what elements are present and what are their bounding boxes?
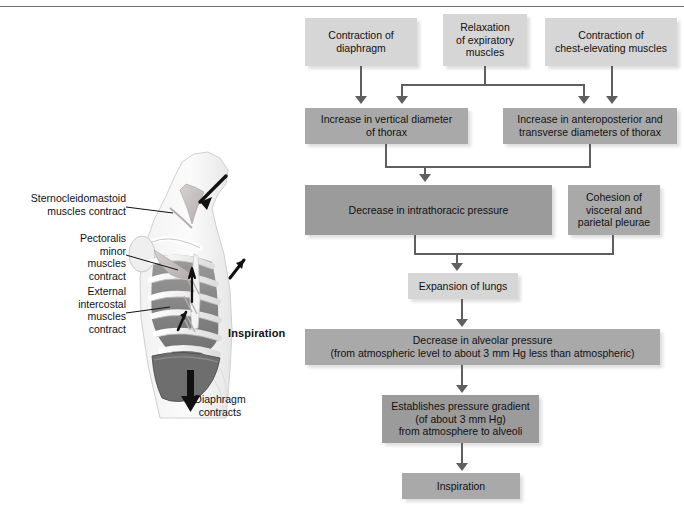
arrowhead-chest-down: [606, 96, 618, 104]
connector-expansion-down: [461, 299, 463, 321]
arrowhead-gradient: [456, 385, 468, 393]
connector-relaxation-bus: [401, 84, 585, 86]
node-establishes-pressure-gradient: Establishes pressure gradient (of about …: [382, 395, 539, 443]
arrowhead-relaxation-left: [396, 96, 408, 104]
figure-root: Inspiration Sternocleidomastoid muscles …: [0, 0, 684, 507]
connector-relaxation-stem: [484, 66, 486, 84]
node-increase-anteroposterior-diameters: Increase in anteroposterior and transver…: [503, 108, 677, 144]
connector-chest-down: [611, 66, 613, 98]
node-cohesion-of-pleurae: Cohesion of visceral and parietal pleura…: [568, 185, 660, 235]
connector-cohesion-drop: [612, 235, 614, 253]
node-relaxation-of-expiratory-muscles: Relaxation of expiratory muscles: [443, 14, 527, 66]
connector-vertical-drop: [385, 144, 387, 166]
arrowhead-relaxation-right: [578, 96, 590, 104]
connector-ap-drop: [589, 144, 591, 166]
connector-row2-merge-bus: [385, 166, 591, 168]
connector-gradient-down: [461, 443, 463, 465]
arrowhead-inspiration: [456, 463, 468, 471]
arrowhead-expansion: [451, 263, 463, 271]
node-expansion-of-lungs: Expansion of lungs: [408, 273, 518, 299]
node-decrease-alveolar-pressure: Decrease in alveolar pressure (from atmo…: [305, 329, 660, 365]
node-increase-vertical-diameter: Increase in vertical diameter of thorax: [305, 108, 468, 144]
connector-diaphragm-down: [360, 66, 362, 98]
node-contraction-of-chest-elevating-muscles: Contraction of chest-elevating muscles: [545, 18, 677, 66]
arrowhead-intrathoracic: [419, 174, 431, 182]
inspiration-flowchart: Contraction of diaphragm Relaxation of e…: [0, 0, 684, 507]
node-inspiration: Inspiration: [402, 473, 520, 499]
connector-intrathoracic-drop: [414, 235, 416, 253]
connector-row3-merge-bus: [414, 253, 614, 255]
arrowhead-alveolar: [456, 319, 468, 327]
arrowhead-diaphragm-down: [355, 96, 367, 104]
connector-alveolar-down: [461, 365, 463, 387]
node-decrease-intrathoracic-pressure: Decrease in intrathoracic pressure: [305, 185, 552, 235]
node-contraction-of-diaphragm: Contraction of diaphragm: [305, 18, 417, 66]
